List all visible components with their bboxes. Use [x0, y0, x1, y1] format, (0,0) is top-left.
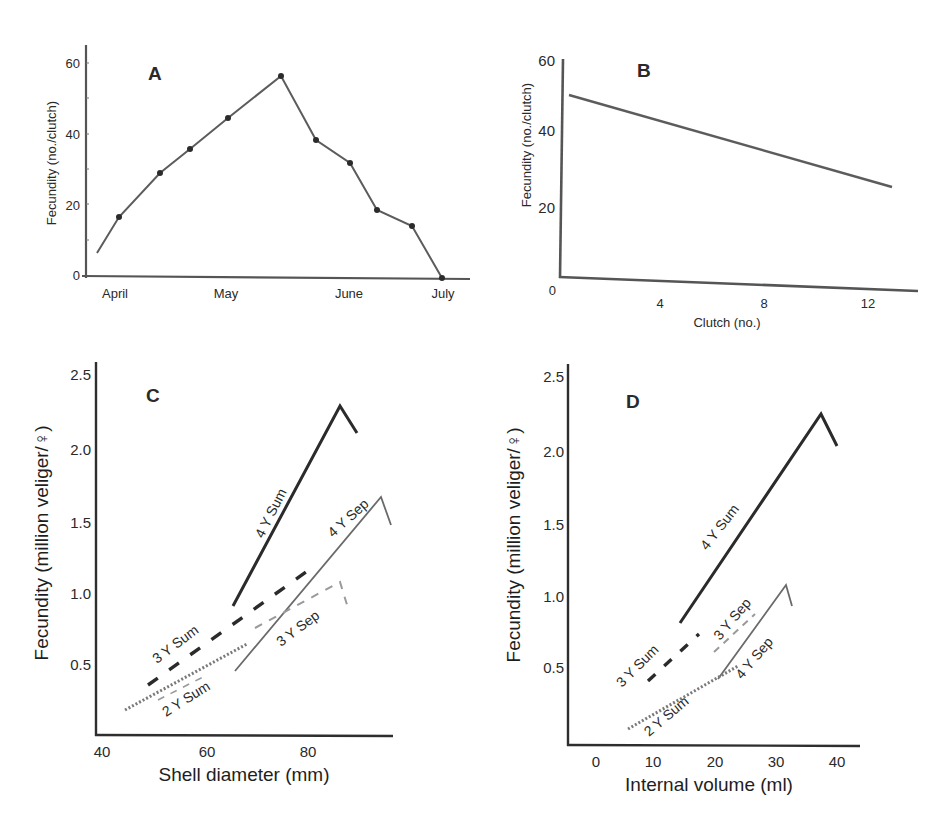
panel-d-ytick-2-0: 2.0	[543, 443, 564, 460]
panel-d-ytick-0-5: 0.5	[543, 659, 564, 676]
panel-a-markers	[116, 73, 445, 281]
panel-b-ytick-0: 0	[549, 283, 556, 298]
panel-a-xtick-june: June	[335, 286, 363, 301]
panel-a-xtick-july: July	[431, 286, 455, 301]
panel-c-label-3y-sum: 3 Y Sum	[149, 622, 201, 667]
panel-d-ytick-1-5: 1.5	[543, 516, 564, 533]
panel-c-y-label: Fecundity (million veliger/♀)	[31, 426, 52, 661]
panel-d-label: D	[626, 391, 640, 412]
panel-a-ytick-40: 40	[66, 127, 80, 142]
panel-c-label-2y-sum: 2 Y Sum	[159, 678, 213, 720]
panel-b-x-axis	[559, 277, 918, 291]
panel-c-series-4y-sum	[233, 406, 357, 606]
panel-c: 2.5 2.0 1.5 1.0 0.5 40 60 80 Shell diame…	[31, 362, 393, 785]
panel-c-ytick-1-0: 1.0	[70, 585, 91, 602]
panel-b-ytick-40: 40	[538, 122, 555, 139]
panel-d-label-3y-sep: 3 Y Sep	[710, 595, 754, 643]
panel-a-fecundity-line	[97, 76, 442, 278]
panel-a-label: A	[148, 63, 162, 84]
panel-c-x-axis	[95, 735, 393, 736]
panel-b-fecundity-line	[569, 95, 892, 187]
panel-d-series-4y-sum	[680, 414, 837, 623]
panel-a-ytick-20: 20	[66, 198, 80, 213]
panel-c-ytick-2-0: 2.0	[70, 441, 91, 458]
panel-c-label: C	[146, 385, 160, 406]
panel-d-label-4y-sum: 4 Y Sum	[697, 501, 742, 553]
panel-a-ytick-60: 60	[66, 56, 80, 71]
panel-b-xtick-4: 4	[656, 296, 663, 311]
panel-d-x-label: Internal volume (ml)	[625, 774, 793, 795]
panel-a-xtick-may: May	[214, 286, 239, 301]
panel-d-label-4y-sep: 4 Y Sep	[732, 634, 776, 682]
panel-d-x-axis	[567, 745, 860, 746]
panel-c-ytick-2-5: 2.5	[70, 366, 91, 383]
panel-d-xtick-10: 10	[645, 753, 662, 770]
panel-c-xtick-40: 40	[94, 743, 111, 760]
panel-d-ytick-2-5: 2.5	[543, 368, 564, 385]
panel-a: 60 40 20 0 April May June July Fecundity…	[44, 45, 470, 301]
panel-d-y-label: Fecundity (million veliger/♀)	[503, 428, 524, 663]
panel-b-x-label: Clutch (no.)	[693, 315, 760, 330]
panel-b-ytick-20: 20	[538, 199, 555, 216]
figure-canvas: 60 40 20 0 April May June July Fecundity…	[0, 0, 941, 826]
panel-d-xtick-30: 30	[768, 753, 785, 770]
panel-d: 2.5 2.0 1.5 1.0 0.5 0 10 20 30 40 Intern…	[503, 364, 860, 795]
panel-d-xtick-20: 20	[707, 753, 724, 770]
panel-a-y-label: Fecundity (no./clutch)	[44, 101, 59, 225]
panel-c-x-label: Shell diameter (mm)	[158, 764, 329, 785]
panel-d-ytick-1-0: 1.0	[543, 588, 564, 605]
panel-c-xtick-60: 60	[199, 743, 216, 760]
panel-b-y-axis	[560, 59, 563, 278]
panel-d-xtick-40: 40	[829, 753, 846, 770]
panel-b-xtick-12: 12	[861, 296, 875, 311]
panel-c-label-3y-sep: 3 Y Sep	[273, 607, 322, 650]
panel-c-ytick-1-5: 1.5	[70, 514, 91, 531]
panel-d-label-3y-sum: 3 Y Sum	[613, 641, 662, 690]
panel-b-y-label: Fecundity (no./clutch)	[519, 83, 534, 207]
panel-b-label: B	[637, 60, 651, 81]
panel-c-xtick-80: 80	[300, 743, 317, 760]
panel-a-x-axis	[82, 276, 470, 279]
panel-b-xtick-8: 8	[760, 296, 767, 311]
panel-d-xtick-0: 0	[592, 753, 600, 770]
panel-b: 60 40 20 0 4 8 12 Clutch (no.) Fecundity…	[519, 52, 918, 330]
panel-a-ytick-0: 0	[73, 268, 80, 283]
panel-c-ytick-0-5: 0.5	[70, 656, 91, 673]
panel-a-xtick-april: April	[102, 286, 128, 301]
panel-b-ytick-60: 60	[538, 52, 555, 69]
